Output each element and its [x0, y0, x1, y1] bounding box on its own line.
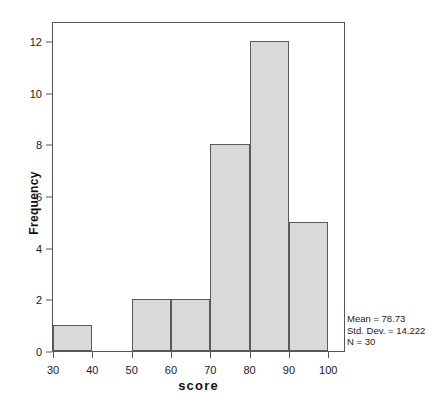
x-tick-mark	[328, 352, 329, 358]
x-tick-label: 50	[126, 364, 138, 376]
y-tick-label: 4	[36, 243, 42, 255]
x-tick-label: 30	[47, 364, 59, 376]
x-tick-label: 60	[165, 364, 177, 376]
histogram-bar	[250, 41, 289, 351]
bars-container	[53, 23, 344, 351]
x-tick-label: 80	[243, 364, 255, 376]
histogram-bar	[53, 325, 92, 351]
y-tick-label: 8	[36, 139, 42, 151]
stats-annotation: Mean = 78.73 Std. Dev. = 14.222 N = 30	[347, 313, 425, 348]
x-tick-mark	[92, 352, 93, 358]
x-tick-label: 70	[204, 364, 216, 376]
x-tick-mark	[250, 352, 251, 358]
histogram-bar	[289, 222, 328, 351]
histogram-chart: Frequency 024681012 30405060708090100 sc…	[0, 0, 442, 405]
x-tick-mark	[289, 352, 290, 358]
x-tick-label: 100	[319, 364, 337, 376]
x-tick-mark	[171, 352, 172, 358]
histogram-bar	[210, 144, 249, 351]
x-tick-mark	[210, 352, 211, 358]
y-axis: 024681012	[0, 0, 52, 405]
x-tick-label: 40	[86, 364, 98, 376]
histogram-bar	[132, 299, 171, 351]
y-tick-label: 10	[30, 88, 42, 100]
std-dev-text: Std. Dev. = 14.222	[347, 325, 425, 337]
x-tick-label: 90	[283, 364, 295, 376]
y-tick-label: 12	[30, 36, 42, 48]
mean-text: Mean = 78.73	[347, 313, 425, 325]
y-tick-label: 2	[36, 294, 42, 306]
x-axis-title: score	[52, 378, 345, 393]
x-tick-mark	[53, 352, 54, 358]
sample-size-text: N = 30	[347, 336, 425, 348]
y-tick-label: 6	[36, 191, 42, 203]
histogram-bar	[171, 299, 210, 351]
x-tick-mark	[132, 352, 133, 358]
